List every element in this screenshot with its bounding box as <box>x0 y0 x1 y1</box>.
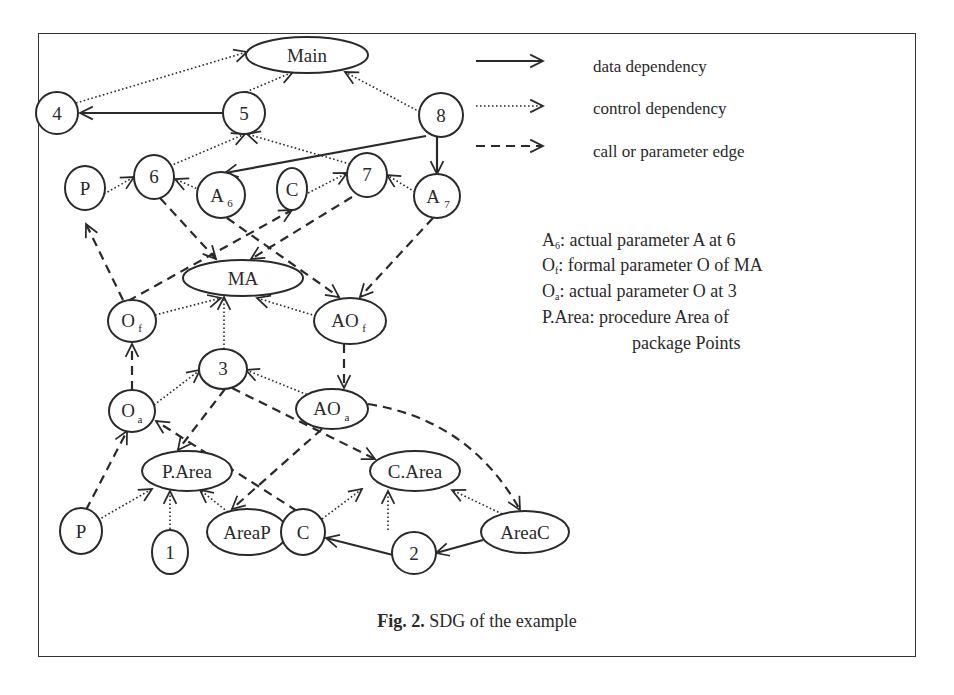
svg-text:6: 6 <box>227 197 233 209</box>
node-ma: MA <box>183 260 303 296</box>
node-1: 1 <box>152 530 188 574</box>
caption-text: SDG of the example <box>425 611 577 631</box>
svg-text:5: 5 <box>239 103 249 124</box>
svg-text:3: 3 <box>218 358 228 379</box>
node-7: 7 <box>347 153 387 197</box>
node-5: 5 <box>223 92 265 134</box>
svg-text:C: C <box>297 522 310 543</box>
svg-text:f: f <box>138 322 142 334</box>
node-a6: A 6 <box>197 172 245 218</box>
node-c-bottom: C <box>281 509 325 555</box>
svg-text:7: 7 <box>362 164 372 185</box>
svg-text:a: a <box>345 411 350 423</box>
svg-text:Main: Main <box>287 45 328 66</box>
node-c-top: C <box>277 168 307 210</box>
legend-label-data-dependency: data dependency <box>593 57 707 77</box>
figure-caption: Fig. 2. SDG of the example <box>0 611 954 632</box>
svg-text:1: 1 <box>165 542 175 563</box>
node-p-bottom: P <box>60 508 102 554</box>
node-p-top: P <box>65 166 105 210</box>
node-6: 6 <box>134 155 174 199</box>
note-package-points: package Points <box>632 331 740 355</box>
node-2: 2 <box>392 532 436 574</box>
node-aoa: AO a <box>296 389 368 429</box>
node-main: Main <box>246 37 368 73</box>
svg-text:AreaC: AreaC <box>500 522 550 543</box>
svg-text:8: 8 <box>436 105 446 126</box>
svg-text:6: 6 <box>149 166 159 187</box>
svg-text:P: P <box>80 178 91 199</box>
svg-text:4: 4 <box>52 103 62 124</box>
node-4: 4 <box>36 92 78 134</box>
svg-text:O: O <box>121 400 135 421</box>
svg-text:A: A <box>426 186 440 207</box>
svg-text:AO: AO <box>331 310 358 331</box>
sdg-diagram: Main 4 5 8 P 6 A 6 C 7 A 7 MA <box>0 0 954 695</box>
node-oa: O a <box>109 390 155 432</box>
svg-text:C.Area: C.Area <box>388 461 443 482</box>
svg-text:a: a <box>138 413 143 425</box>
node-aof: AO f <box>314 298 386 344</box>
legend-label-call-edge: call or parameter edge <box>593 142 745 162</box>
svg-text:A: A <box>210 185 224 206</box>
svg-text:2: 2 <box>409 543 419 564</box>
node-a7: A 7 <box>414 174 460 218</box>
svg-text:P.Area: P.Area <box>162 461 213 482</box>
svg-text:f: f <box>362 322 366 334</box>
note-p-area: P.Area: procedure Area of <box>542 305 729 329</box>
caption-label: Fig. 2. <box>377 611 425 631</box>
node-3: 3 <box>199 349 247 389</box>
node-of: O f <box>108 300 156 342</box>
svg-text:C: C <box>286 179 299 200</box>
node-8: 8 <box>419 93 463 137</box>
node-area-p: AreaP <box>207 509 287 555</box>
svg-text:7: 7 <box>444 198 450 210</box>
svg-text:AreaP: AreaP <box>223 522 270 543</box>
svg-text:MA: MA <box>228 268 259 289</box>
svg-text:AO: AO <box>313 398 340 419</box>
svg-text:P: P <box>76 521 87 542</box>
node-p-area: P.Area <box>142 451 232 491</box>
svg-text:O: O <box>121 310 135 331</box>
legend-label-control-dependency: control dependency <box>593 99 727 119</box>
node-area-c: AreaC <box>481 511 569 553</box>
node-c-area: C.Area <box>370 451 460 491</box>
